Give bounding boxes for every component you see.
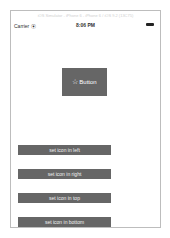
button-label: set icon in right bbox=[48, 171, 82, 177]
set-icon-right-button[interactable]: set icon in right bbox=[18, 169, 111, 179]
set-icon-top-button[interactable]: set icon in top bbox=[18, 193, 111, 203]
star-icon: ☆ bbox=[72, 78, 78, 86]
window-title: iOS Simulator - iPhone 6 - iPhone 6 / iO… bbox=[13, 13, 158, 19]
set-icon-bottom-button[interactable]: set icon in bottom bbox=[18, 217, 111, 227]
button-label: set icon in top bbox=[49, 195, 80, 201]
simulator-window: iOS Simulator - iPhone 6 - iPhone 6 / iO… bbox=[10, 10, 161, 228]
status-time: 8:06 PM bbox=[11, 22, 160, 28]
button-label: set icon in bottom bbox=[45, 219, 84, 225]
image-title-button-label: Button bbox=[79, 79, 96, 85]
image-title-button[interactable]: ☆ Button bbox=[62, 68, 107, 96]
battery-icon bbox=[146, 23, 154, 26]
status-bar: Carrier ⦿ 8:06 PM bbox=[11, 21, 160, 29]
button-label: set icon in left bbox=[49, 147, 80, 153]
set-icon-left-button[interactable]: set icon in left bbox=[18, 145, 111, 155]
